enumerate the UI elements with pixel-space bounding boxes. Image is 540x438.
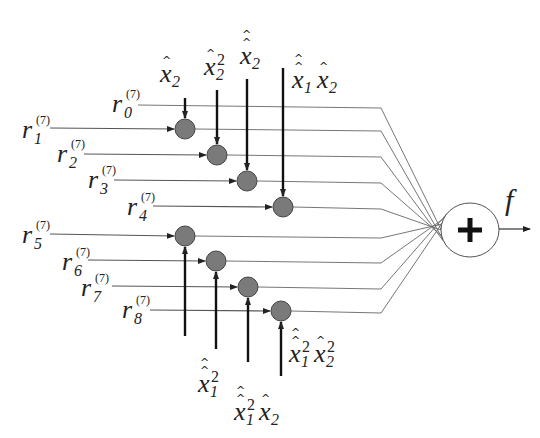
variable-subscript: 2 xyxy=(326,353,334,370)
input-label-superscript: (7) xyxy=(36,113,50,127)
input-label-superscript: (7) xyxy=(36,218,50,232)
input-label-r8: r xyxy=(122,295,133,324)
hat-icon: ^ xyxy=(236,384,245,397)
hat-icon: ^ xyxy=(319,60,328,73)
hat-icon: ^ xyxy=(316,334,325,347)
variable-subscript: 2 xyxy=(172,73,180,90)
input-label-superscript: (7) xyxy=(76,245,90,259)
multiplier-node-6 xyxy=(206,251,226,271)
input-label-r5: r xyxy=(22,220,33,249)
variable-superscript: 2 xyxy=(302,338,310,355)
control-label-top-2: x^22 xyxy=(203,47,225,83)
input-label-superscript: (7) xyxy=(136,293,150,307)
hat-icon: ^ xyxy=(261,392,270,405)
input-label-r6: r xyxy=(62,247,73,276)
summation-network-diagram: r0(7)r1(7)r2(7)r3(7)r4(7)r5(7)r6(7)r7(7)… xyxy=(0,0,540,438)
variable-superscript: 2 xyxy=(327,338,335,355)
variable-superscript: 2 xyxy=(217,51,225,68)
hat-icon: ^ xyxy=(242,28,251,41)
multiplier-node-3 xyxy=(237,171,257,191)
multiplier-node-5 xyxy=(175,226,195,246)
hat-icon: ^ xyxy=(291,326,300,339)
variable-subscript: 2 xyxy=(252,55,260,72)
input-label-r3: r xyxy=(88,165,99,194)
input-label-superscript: (7) xyxy=(126,87,140,101)
input-label-subscript: 4 xyxy=(139,207,147,224)
input-label-subscript: 5 xyxy=(34,235,42,252)
input-label-subscript: 3 xyxy=(99,180,108,197)
input-label-subscript: 8 xyxy=(134,310,142,327)
input-label-subscript: 1 xyxy=(34,130,42,147)
input-label-r4: r xyxy=(127,192,138,221)
hat-icon: ^ xyxy=(162,54,171,67)
input-label-superscript: (7) xyxy=(71,137,85,151)
hat-icon: ^ xyxy=(206,47,215,60)
variable-subscript: 2 xyxy=(329,79,337,96)
input-label-superscript: (7) xyxy=(95,271,109,285)
variable-subscript: 1 xyxy=(301,353,309,370)
multiplier-node-1 xyxy=(175,119,195,139)
variable-subscript: 1 xyxy=(246,411,254,428)
input-label-r1: r xyxy=(22,115,33,144)
multiplier-node-7 xyxy=(238,277,258,297)
variable-superscript: 2 xyxy=(247,396,255,413)
input-label-r2: r xyxy=(57,139,68,168)
summing-junction xyxy=(441,203,499,257)
input-label-superscript: (7) xyxy=(141,190,155,204)
variable-subscript: 1 xyxy=(304,79,312,96)
hat-icon: ^ xyxy=(294,52,303,65)
multiplier-node-2 xyxy=(207,145,227,165)
variable-subscript: 1 xyxy=(210,383,218,400)
multiplier-node-8 xyxy=(271,301,291,321)
variable-subscript: 2 xyxy=(271,411,279,428)
input-label-subscript: 7 xyxy=(93,288,102,305)
hat-icon: ^ xyxy=(200,356,209,369)
multiplier-node-4 xyxy=(273,197,293,217)
input-label-subscript: 2 xyxy=(69,154,77,171)
input-label-subscript: 0 xyxy=(124,104,132,121)
input-label-r7: r xyxy=(81,273,92,302)
variable-subscript: 2 xyxy=(216,66,224,83)
input-label-superscript: (7) xyxy=(102,163,116,177)
input-label-r0: r xyxy=(112,89,123,118)
variable-superscript: 2 xyxy=(211,368,219,385)
